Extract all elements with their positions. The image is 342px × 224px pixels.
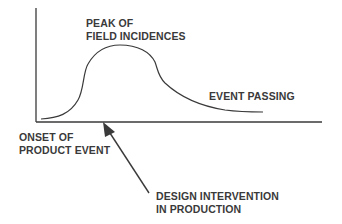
intervention-label-line1: DESIGN INTERVENTION xyxy=(156,190,279,202)
intervention-label-line2: IN PRODUCTION xyxy=(156,203,241,215)
peak-label-line2: FIELD INCIDENCES xyxy=(86,30,186,42)
design-intervention-arrow xyxy=(103,122,149,193)
onset-label-line1: ONSET OF xyxy=(19,131,74,143)
incidence-curve xyxy=(41,45,263,119)
arrowhead-icon xyxy=(103,122,115,137)
event-passing-label: EVENT PASSING xyxy=(209,90,295,102)
onset-label-line2: PRODUCT EVENT xyxy=(19,144,111,156)
lifecycle-diagram: PEAK OF FIELD INCIDENCES EVENT PASSING O… xyxy=(0,0,342,224)
peak-label-line1: PEAK OF xyxy=(86,17,134,29)
